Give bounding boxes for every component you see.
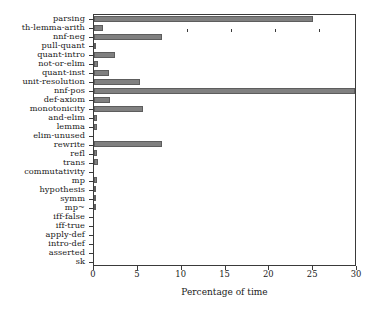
- bar-row: [94, 104, 355, 113]
- bar: [94, 61, 98, 67]
- bar-row: [94, 131, 355, 140]
- bar-row: [94, 122, 355, 131]
- bar: [94, 177, 97, 183]
- bar-row: [94, 247, 355, 256]
- bar-row: [94, 60, 355, 69]
- bar-row: [94, 15, 355, 24]
- bar: [94, 124, 97, 130]
- bar-row: [94, 229, 355, 238]
- bar: [94, 88, 355, 94]
- bar: [94, 159, 98, 165]
- bar-row: [94, 158, 355, 167]
- x-axis-top-tick-marks: [187, 29, 356, 33]
- bar: [94, 195, 96, 201]
- bar-row: [94, 256, 355, 265]
- x-axis-tick-top: [187, 29, 188, 32]
- bar-row: [94, 95, 355, 104]
- bar: [94, 106, 143, 112]
- x-axis-tick-label: 25: [307, 270, 318, 278]
- x-axis-tick-top: [319, 29, 320, 32]
- x-axis-title: Percentage of time: [93, 288, 356, 297]
- bar-row: [94, 167, 355, 176]
- x-axis-tick-label: 20: [263, 270, 274, 278]
- bar-row: [94, 86, 355, 95]
- bar: [94, 70, 109, 76]
- bar-row: [94, 238, 355, 247]
- bar: [94, 16, 313, 22]
- plot-area: [93, 14, 356, 266]
- x-axis-tick-top: [275, 29, 276, 32]
- bar-row: [94, 113, 355, 122]
- bar: [94, 186, 96, 192]
- bar: [94, 97, 110, 103]
- bar-row: [94, 51, 355, 60]
- bar-row: [94, 69, 355, 78]
- bar: [94, 52, 115, 58]
- bar-row: [94, 149, 355, 158]
- bar: [94, 115, 97, 121]
- bar-series: [94, 15, 355, 265]
- y-axis-label: sk: [0, 257, 90, 266]
- x-axis-tick-label: 0: [90, 270, 95, 278]
- bar-row: [94, 176, 355, 185]
- bar: [94, 43, 96, 49]
- bar: [94, 141, 162, 147]
- bar-row: [94, 42, 355, 51]
- bar-row: [94, 77, 355, 86]
- bar-row: [94, 33, 355, 42]
- x-axis-tick-labels: 051015202530: [93, 270, 356, 284]
- bar: [94, 79, 140, 85]
- bar-row: [94, 220, 355, 229]
- x-axis-tick-label: 5: [134, 270, 139, 278]
- bar-row: [94, 140, 355, 149]
- bar-row: [94, 202, 355, 211]
- bar: [94, 34, 162, 40]
- bar: [94, 204, 96, 210]
- bar-row: [94, 193, 355, 202]
- y-axis-category-labels: parsingth-lemma-arithnnf-negpull-quantqu…: [0, 14, 90, 266]
- x-axis-tick-label: 15: [219, 270, 230, 278]
- bar: [94, 25, 103, 31]
- bar-row: [94, 185, 355, 194]
- bar-row: [94, 211, 355, 220]
- x-axis-tick-top: [231, 29, 232, 32]
- bar: [94, 150, 97, 156]
- x-axis-tick-label: 30: [351, 270, 362, 278]
- bar-chart-figure: parsingth-lemma-arithnnf-negpull-quantqu…: [0, 0, 378, 311]
- x-axis-tick-label: 10: [175, 270, 186, 278]
